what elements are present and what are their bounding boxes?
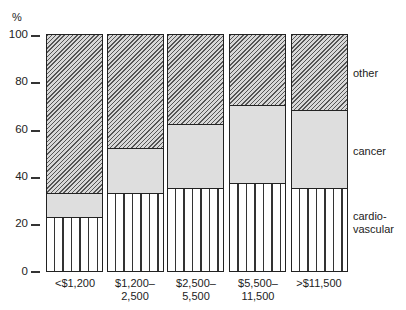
- y-tick-label-20: 20: [4, 217, 28, 229]
- y-tick-mark: [31, 224, 40, 226]
- x-label-1: $1,200– 2,500: [103, 277, 167, 303]
- segment-cancer: [167, 124, 224, 189]
- segment-other: [167, 34, 224, 125]
- y-tick-mark: [31, 35, 40, 37]
- y-tick-mark: [31, 130, 40, 132]
- segment-cancer: [46, 193, 103, 218]
- x-label-line: 11,500: [226, 290, 290, 303]
- bar-0: [46, 35, 103, 272]
- y-tick-label-60: 60: [4, 123, 28, 135]
- label-cancer: cancer: [353, 145, 386, 158]
- segment-cardio: [46, 217, 103, 273]
- segment-cardio: [291, 188, 348, 272]
- bar-4: [291, 35, 348, 272]
- x-label-line: 2,500: [103, 290, 167, 303]
- y-tick-label-40: 40: [4, 170, 28, 182]
- segment-other: [291, 34, 348, 111]
- segment-cardio: [167, 188, 224, 272]
- x-label-3: $5,500– 11,500: [226, 277, 290, 303]
- segment-cardio: [107, 193, 164, 272]
- y-tick-label-0: 0: [4, 265, 28, 277]
- x-label-line: $2,500–: [164, 277, 228, 290]
- y-tick-mark: [31, 177, 40, 179]
- segment-cardio: [229, 183, 286, 272]
- x-label-2: $2,500– 5,500: [164, 277, 228, 303]
- y-tick-label-80: 80: [4, 75, 28, 87]
- y-tick-label-100: 100: [4, 28, 28, 40]
- y-tick-mark: [31, 271, 40, 273]
- bar-1: [107, 35, 164, 272]
- x-label-line: <$1,200: [43, 277, 107, 290]
- segment-cancer: [107, 148, 164, 194]
- segment-other: [229, 34, 286, 106]
- y-axis-unit-label: %: [12, 11, 22, 23]
- label-cardio-line2: vascular: [353, 223, 394, 236]
- x-label-line: $5,500–: [226, 277, 290, 290]
- x-label-line: >$11,500: [287, 277, 351, 290]
- label-other: other: [353, 67, 378, 80]
- label-cardio-line1: cardio-: [353, 210, 394, 223]
- x-label-0: <$1,200: [43, 277, 107, 290]
- x-label-line: 5,500: [164, 290, 228, 303]
- x-label-line: $1,200–: [103, 277, 167, 290]
- segment-cancer: [229, 105, 286, 184]
- segment-cancer: [291, 110, 348, 189]
- y-tick-mark: [31, 82, 40, 84]
- bar-3: [229, 35, 286, 272]
- segment-other: [107, 34, 164, 149]
- x-label-4: >$11,500: [287, 277, 351, 290]
- segment-other: [46, 34, 103, 194]
- bar-2: [167, 35, 224, 272]
- label-cardiovascular: cardio- vascular: [353, 210, 394, 236]
